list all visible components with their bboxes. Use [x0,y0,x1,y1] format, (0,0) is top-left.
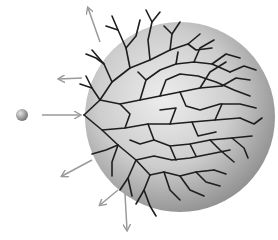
outgoing-arrow-bottom [125,194,127,230]
outgoing-arrow-bottom-left [100,190,118,205]
sphere [85,22,275,212]
dendrite-sphere-diagram [0,0,278,240]
particle-ball [16,109,28,121]
diagram-canvas [0,0,278,240]
outgoing-arrow-lower-left [62,160,92,176]
outgoing-arrow-top [88,8,100,42]
outgoing-arrow-left [59,78,82,79]
